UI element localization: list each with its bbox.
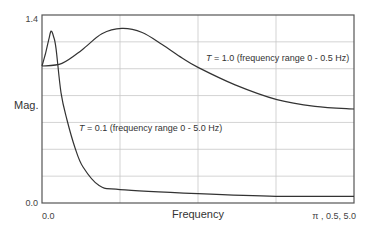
series-label-t1: T = 1.0 (frequency range 0 - 0.5 Hz) xyxy=(206,53,349,63)
series-label-t01: T = 0.1 (frequency range 0 - 5.0 Hz) xyxy=(79,123,222,133)
x-tick-left: 0.0 xyxy=(42,211,55,221)
y-tick-bottom: 0.0 xyxy=(25,198,38,208)
chart: 1.4 0.0 0.0 π , 0.5, 5.0 Mag. Frequency … xyxy=(0,0,370,232)
x-tick-right: π , 0.5, 5.0 xyxy=(312,211,356,221)
x-axis-label: Frequency xyxy=(172,208,224,220)
y-tick-top: 1.4 xyxy=(25,14,38,24)
y-axis-label: Mag. xyxy=(14,99,38,111)
